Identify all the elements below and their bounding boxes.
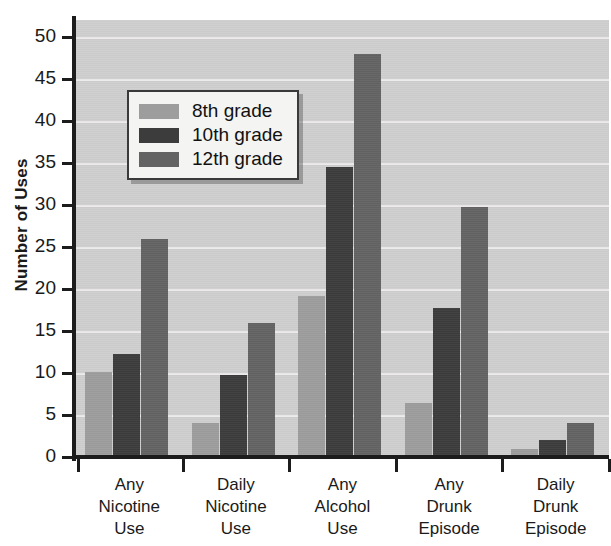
y-tick-mark xyxy=(62,36,74,39)
y-tick-mark xyxy=(62,78,74,81)
bar xyxy=(354,54,381,457)
x-tick-mark xyxy=(182,459,185,472)
bar xyxy=(248,323,275,457)
legend-item: 8th grade xyxy=(139,99,283,123)
x-group-label-line: Any xyxy=(289,474,396,496)
legend-item: 12th grade xyxy=(139,147,283,171)
x-axis-line xyxy=(72,455,609,459)
y-axis-title: Number of Uses xyxy=(12,115,32,335)
legend-item: 10th grade xyxy=(139,123,283,147)
y-tick-mark xyxy=(62,204,74,207)
x-group-label: AnyAlcoholUse xyxy=(289,474,396,540)
y-tick-label: 0 xyxy=(0,445,56,467)
x-tick-mark xyxy=(395,459,398,472)
x-group-label-line: Daily xyxy=(502,474,609,496)
gridline xyxy=(76,79,609,81)
bar xyxy=(85,372,112,457)
bar xyxy=(405,403,432,457)
y-tick-label: 5 xyxy=(0,403,56,425)
x-group-label-line: Episode xyxy=(396,518,503,540)
x-group-label-line: Drunk xyxy=(396,496,503,518)
legend-label-grade12: 12th grade xyxy=(192,148,283,170)
x-group-label: AnyNicotineUse xyxy=(76,474,183,540)
y-tick-mark xyxy=(62,456,74,459)
y-tick-label: 25 xyxy=(0,235,56,257)
bar xyxy=(567,423,594,457)
x-group-label-line: Any xyxy=(396,474,503,496)
x-group-label-line: Use xyxy=(289,518,396,540)
x-group-label-line: Any xyxy=(76,474,183,496)
bar xyxy=(192,423,219,457)
plot-area xyxy=(76,20,609,457)
x-tick-mark xyxy=(501,459,504,472)
x-group-label-line: Episode xyxy=(502,518,609,540)
bar xyxy=(220,375,247,457)
y-tick-mark xyxy=(62,162,74,165)
legend-label-grade8: 8th grade xyxy=(192,100,272,122)
x-tick-mark xyxy=(288,459,291,472)
y-tick-mark xyxy=(62,288,74,291)
y-tick-mark xyxy=(62,330,74,333)
bar xyxy=(326,167,353,457)
y-tick-mark xyxy=(62,414,74,417)
legend: 8th grade 10th grade 12th grade xyxy=(127,90,299,180)
x-group-label-line: Alcohol xyxy=(289,496,396,518)
gridline xyxy=(76,37,609,39)
legend-label-grade10: 10th grade xyxy=(192,124,283,146)
y-tick-label: 20 xyxy=(0,277,56,299)
legend-swatch-grade10 xyxy=(139,128,179,143)
x-tick-mark xyxy=(77,459,80,472)
y-tick-label: 35 xyxy=(0,151,56,173)
bar xyxy=(433,308,460,457)
x-group-label-line: Nicotine xyxy=(76,496,183,518)
y-axis-line xyxy=(72,16,76,461)
legend-swatch-grade8 xyxy=(139,104,179,119)
bar xyxy=(113,354,140,457)
bar xyxy=(461,207,488,457)
x-group-label: DailyNicotineUse xyxy=(183,474,290,540)
y-tick-label: 10 xyxy=(0,361,56,383)
x-group-label: AnyDrunkEpisode xyxy=(396,474,503,540)
y-tick-label: 50 xyxy=(0,25,56,47)
x-group-label-line: Use xyxy=(183,518,290,540)
x-group-label: DailyDrunkEpisode xyxy=(502,474,609,540)
legend-swatch-grade12 xyxy=(139,152,179,167)
y-tick-mark xyxy=(62,372,74,375)
bar xyxy=(141,239,168,458)
y-tick-label: 40 xyxy=(0,109,56,131)
x-group-label-line: Nicotine xyxy=(183,496,290,518)
y-tick-label: 30 xyxy=(0,193,56,215)
y-tick-mark xyxy=(62,246,74,249)
y-tick-label: 15 xyxy=(0,319,56,341)
bar xyxy=(298,296,325,457)
x-group-label-line: Daily xyxy=(183,474,290,496)
x-group-label-line: Drunk xyxy=(502,496,609,518)
y-tick-label: 45 xyxy=(0,67,56,89)
x-group-label-line: Use xyxy=(76,518,183,540)
y-tick-mark xyxy=(62,120,74,123)
